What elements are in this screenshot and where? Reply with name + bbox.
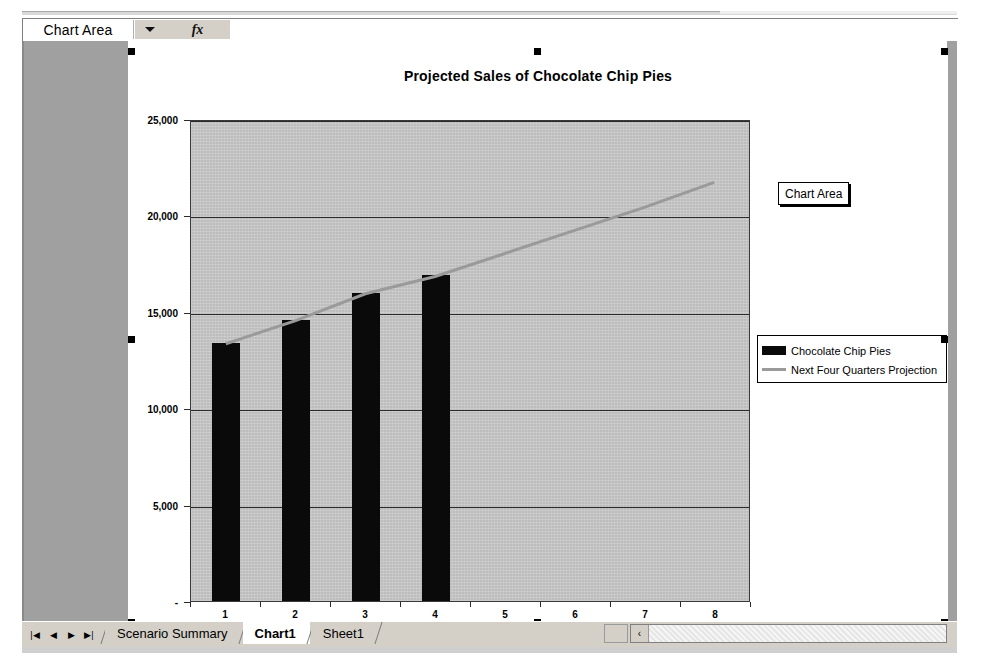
resize-handle-top-center[interactable] bbox=[534, 48, 541, 55]
x-axis-tick bbox=[260, 602, 261, 607]
formula-input[interactable] bbox=[230, 20, 957, 39]
sheet-tab-scenario-summary[interactable]: Scenario Summary bbox=[105, 622, 242, 644]
window-left-margin bbox=[0, 18, 22, 658]
chart-object[interactable]: Projected Sales of Chocolate Chip Pies -… bbox=[128, 48, 948, 626]
window-top-strip bbox=[0, 0, 982, 18]
resize-handle-middle-left[interactable] bbox=[128, 336, 135, 343]
name-box-separator bbox=[133, 20, 134, 39]
sheet-background-left bbox=[22, 41, 128, 621]
legend-item[interactable]: Next Four Quarters Projection bbox=[762, 360, 942, 379]
sheet-tab-sheet1[interactable]: Sheet1 bbox=[311, 622, 378, 644]
window-right-margin bbox=[962, 0, 982, 671]
chart-legend[interactable]: Chocolate Chip Pies Next Four Quarters P… bbox=[757, 335, 947, 383]
excel-chart-sheet-window: Chart Area fx Projected Sales of Chocola… bbox=[0, 0, 982, 671]
resize-handle-middle-right[interactable] bbox=[941, 336, 948, 343]
legend-swatch-line-icon bbox=[762, 368, 786, 371]
nav-prev-sheet-icon[interactable]: ◀ bbox=[44, 625, 62, 644]
tab-split-handle[interactable] bbox=[604, 624, 628, 643]
horizontal-scrollbar[interactable]: ‹ bbox=[630, 624, 947, 643]
name-box-value: Chart Area bbox=[44, 22, 113, 38]
x-axis-tick-label: 2 bbox=[260, 609, 330, 620]
x-axis-tick bbox=[470, 602, 471, 607]
insert-function-button[interactable]: fx bbox=[165, 20, 230, 39]
formula-bar: Chart Area fx bbox=[22, 18, 958, 42]
x-axis-tick-label: 6 bbox=[540, 609, 610, 620]
nav-last-sheet-icon[interactable]: ▶| bbox=[80, 625, 98, 644]
sheet-nav-buttons[interactable]: |◀◀▶▶| bbox=[26, 625, 100, 644]
fx-icon: fx bbox=[192, 22, 204, 38]
nav-first-sheet-icon[interactable]: |◀ bbox=[26, 625, 44, 644]
x-axis-tick-label: 5 bbox=[470, 609, 540, 620]
x-axis-tick bbox=[610, 602, 611, 607]
scroll-left-arrow-icon[interactable]: ‹ bbox=[631, 625, 649, 642]
x-axis-tick bbox=[400, 602, 401, 607]
legend-label: Next Four Quarters Projection bbox=[791, 364, 937, 376]
nav-next-sheet-icon[interactable]: ▶ bbox=[62, 625, 80, 644]
x-axis-tick-label: 1 bbox=[190, 609, 260, 620]
x-axis-tick-label: 8 bbox=[680, 609, 750, 620]
toolbar-edge-right bbox=[720, 11, 957, 14]
x-axis-tick-label: 3 bbox=[330, 609, 400, 620]
legend-swatch-bar-icon bbox=[762, 346, 786, 355]
name-box[interactable]: Chart Area bbox=[23, 20, 133, 39]
x-axis-tick bbox=[750, 602, 751, 607]
x-axis-tick bbox=[540, 602, 541, 607]
legend-label: Chocolate Chip Pies bbox=[791, 345, 891, 357]
x-axis-tick-label: 4 bbox=[400, 609, 470, 620]
x-axis-tick bbox=[330, 602, 331, 607]
legend-item[interactable]: Chocolate Chip Pies bbox=[762, 341, 942, 360]
chevron-down-icon[interactable] bbox=[135, 20, 165, 39]
x-axis-tick-label: 7 bbox=[610, 609, 680, 620]
status-bar-band bbox=[22, 647, 957, 653]
sheet-background-right bbox=[947, 41, 957, 621]
sheet-tabs[interactable]: Scenario SummaryChart1Sheet1 bbox=[104, 622, 379, 648]
chart-area-tooltip: Chart Area bbox=[778, 182, 849, 205]
sheet-tab-chart1[interactable]: Chart1 bbox=[243, 622, 310, 644]
x-axis-tick bbox=[680, 602, 681, 607]
x-axis-tick bbox=[190, 602, 191, 607]
window-bottom-strip bbox=[0, 647, 982, 671]
resize-handle-top-right[interactable] bbox=[941, 48, 948, 55]
scrollbar-track[interactable] bbox=[649, 625, 946, 642]
resize-handle-top-left[interactable] bbox=[128, 48, 135, 55]
